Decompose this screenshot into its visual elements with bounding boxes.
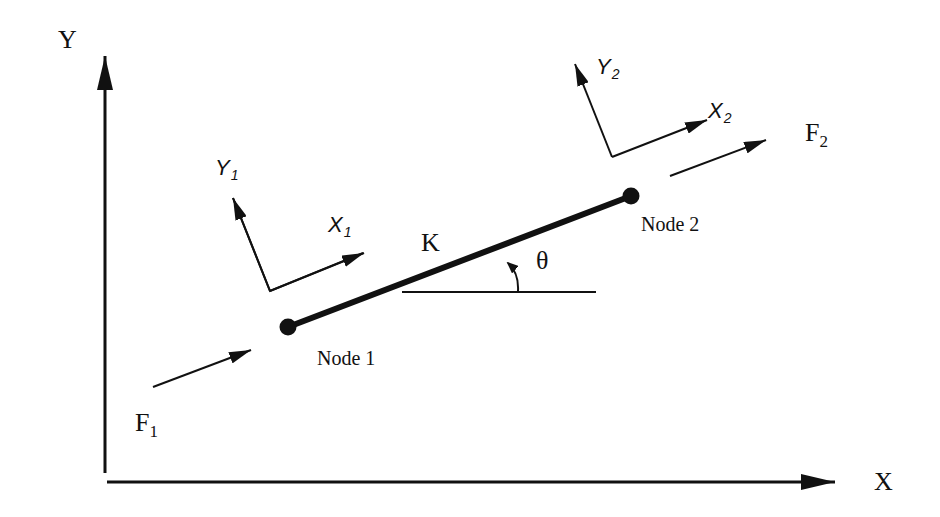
local-y2-label: Y2 <box>596 54 620 82</box>
node-1-label: Node 1 <box>317 347 375 369</box>
force-f2-arrow-icon <box>670 140 766 176</box>
local-frame-node-1 <box>233 198 364 291</box>
theta-label: θ <box>536 246 548 275</box>
local-x2-label: X2 <box>707 98 732 126</box>
force-f1-arrow-icon <box>153 350 251 387</box>
angle-arc-arrow-icon <box>508 263 518 291</box>
local-frame-node-2 <box>575 64 707 157</box>
node-2-label: Node 2 <box>641 213 699 235</box>
spring-element <box>280 188 640 336</box>
force-f1-label: F1 <box>135 408 158 441</box>
spring-element-diagram: Y X K θ Y1 X1 Y2 X2 F1 F2 Node 1 Node 2 <box>0 0 940 517</box>
global-y-label: Y <box>58 25 77 54</box>
node-2-point <box>623 188 640 205</box>
force-f2-label: F2 <box>805 118 828 151</box>
local-y1-label: Y1 <box>215 155 238 183</box>
local-x1-label: X1 <box>327 212 351 240</box>
element-k-label: K <box>421 228 440 257</box>
node-1-point <box>280 319 297 336</box>
global-x-label: X <box>874 467 893 496</box>
